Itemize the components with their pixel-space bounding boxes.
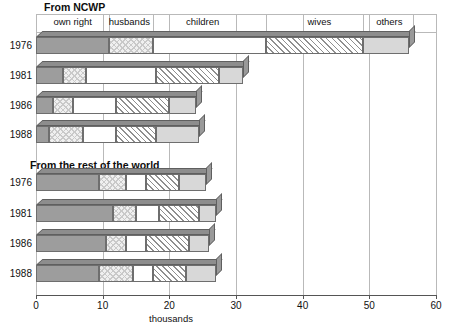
bar-segment-children[interactable] xyxy=(126,174,146,191)
year-label-1981-ncwp: 1981 xyxy=(2,70,32,81)
bar-segment-own-right[interactable] xyxy=(36,265,99,282)
year-label-1976-ncwp: 1976 xyxy=(2,40,32,51)
bar-segment-wives[interactable] xyxy=(116,126,156,143)
bar-segment-own-right[interactable] xyxy=(36,67,63,84)
bar-segment-own-right[interactable] xyxy=(36,97,53,114)
stacked-bar-chart: own righthusbandschildrenwivesothers Fro… xyxy=(0,0,458,328)
bar-segment-others[interactable] xyxy=(179,174,206,191)
gridline-10 xyxy=(103,14,104,295)
bar-segment-others[interactable] xyxy=(189,235,209,252)
bar-segment-husbands[interactable] xyxy=(53,97,73,114)
bar-segment-children[interactable] xyxy=(83,126,116,143)
bar-segment-husbands[interactable] xyxy=(99,265,132,282)
gridline-60 xyxy=(436,14,437,295)
bar-segment-others[interactable] xyxy=(156,126,199,143)
bar-top-face xyxy=(36,61,249,67)
gridline-50 xyxy=(369,14,370,295)
gridline-0 xyxy=(36,14,37,295)
gridline-40 xyxy=(303,14,304,295)
bar-segment-own-right[interactable] xyxy=(36,205,113,222)
bar-segment-others[interactable] xyxy=(186,265,216,282)
x-axis-title: thousands xyxy=(149,313,193,324)
category-label-wives: wives xyxy=(279,16,359,27)
bar-segment-others[interactable] xyxy=(199,205,216,222)
bar-segment-husbands[interactable] xyxy=(63,67,86,84)
gridline-30 xyxy=(236,14,237,295)
category-label-children: children xyxy=(163,16,243,27)
x-tick-50 xyxy=(369,295,370,299)
x-tick-label-60: 60 xyxy=(430,300,441,311)
bar-segment-own-right[interactable] xyxy=(36,235,106,252)
x-tick-10 xyxy=(103,295,104,299)
bar-segment-children[interactable] xyxy=(153,37,266,54)
bar-segment-wives[interactable] xyxy=(159,205,199,222)
bar-segment-wives[interactable] xyxy=(146,174,179,191)
bar-segment-children[interactable] xyxy=(133,265,153,282)
year-label-1988-row: 1988 xyxy=(2,268,32,279)
x-tick-label-40: 40 xyxy=(297,300,308,311)
x-tick-30 xyxy=(236,295,237,299)
bar-segment-wives[interactable] xyxy=(266,37,363,54)
bar-top-face xyxy=(36,168,213,174)
bar-top-face xyxy=(36,120,206,126)
bar-segment-husbands[interactable] xyxy=(99,174,126,191)
bar-segment-wives[interactable] xyxy=(153,265,186,282)
x-tick-20 xyxy=(169,295,170,299)
x-tick-40 xyxy=(303,295,304,299)
bar-segment-husbands[interactable] xyxy=(49,126,82,143)
x-tick-label-50: 50 xyxy=(364,300,375,311)
year-label-1986-ncwp: 1986 xyxy=(2,100,32,111)
bar-segment-others[interactable] xyxy=(363,37,410,54)
bar-segment-husbands[interactable] xyxy=(106,235,126,252)
bar-segment-children[interactable] xyxy=(86,67,156,84)
bar-segment-own-right[interactable] xyxy=(36,174,99,191)
category-label-husbands: husbands xyxy=(89,16,169,27)
bar-segment-children[interactable] xyxy=(73,97,116,114)
year-label-1976-row: 1976 xyxy=(2,177,32,188)
x-tick-label-0: 0 xyxy=(33,300,39,311)
bar-segment-wives[interactable] xyxy=(146,235,189,252)
x-tick-label-10: 10 xyxy=(97,300,108,311)
category-label-others: others xyxy=(349,16,429,27)
x-tick-0 xyxy=(36,295,37,299)
x-tick-60 xyxy=(436,295,437,299)
bar-top-face xyxy=(36,259,223,265)
bar-segment-own-right[interactable] xyxy=(36,126,49,143)
bar-segment-others[interactable] xyxy=(169,97,196,114)
bar-segment-wives[interactable] xyxy=(156,67,219,84)
bar-top-face xyxy=(36,229,216,235)
year-label-1986-row: 1986 xyxy=(2,238,32,249)
category-separator xyxy=(436,15,437,32)
bar-segment-children[interactable] xyxy=(126,235,146,252)
bar-segment-children[interactable] xyxy=(136,205,159,222)
bar-segment-husbands[interactable] xyxy=(109,37,152,54)
bar-segment-others[interactable] xyxy=(219,67,242,84)
bar-top-face xyxy=(36,91,203,97)
bar-top-face xyxy=(36,31,416,37)
section-title-ncwp: From NCWP xyxy=(44,1,105,13)
bar-segment-wives[interactable] xyxy=(116,97,169,114)
x-tick-label-20: 20 xyxy=(164,300,175,311)
plot-area xyxy=(36,14,436,295)
bar-segment-own-right[interactable] xyxy=(36,37,109,54)
x-tick-label-30: 30 xyxy=(230,300,241,311)
year-label-1981-row: 1981 xyxy=(2,208,32,219)
category-separator xyxy=(266,15,267,32)
bar-segment-husbands[interactable] xyxy=(113,205,136,222)
year-label-1988-ncwp: 1988 xyxy=(2,129,32,140)
gridline-20 xyxy=(169,14,170,295)
bar-top-face xyxy=(36,199,223,205)
